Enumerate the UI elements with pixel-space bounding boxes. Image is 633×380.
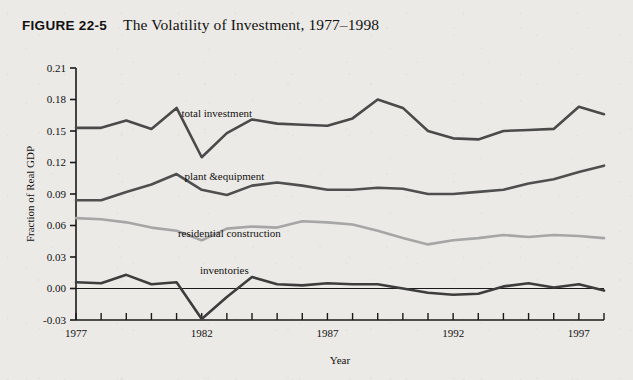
chart-plot-area: 0.210.180.150.120.090.060.030.00-0.03 19… (0, 44, 633, 380)
series-line (76, 100, 604, 158)
line-chart: 0.210.180.150.120.090.060.030.00-0.03 19… (0, 44, 633, 380)
series-label: inventories (200, 264, 249, 276)
y-axis: 0.210.180.150.120.090.060.030.00-0.03 (43, 62, 76, 326)
x-axis-tick-label: 1997 (568, 327, 591, 339)
y-axis-tick-label: 0.09 (47, 188, 67, 200)
series-lines (76, 100, 604, 319)
y-axis-tick-label: 0.15 (47, 125, 67, 137)
series-label: residential construction (178, 227, 281, 239)
y-axis-tick-label: 0.06 (47, 219, 67, 231)
x-axis-title: Year (330, 354, 351, 366)
y-axis-title: Fraction of Real GDP (24, 146, 36, 242)
x-axis-tick-label: 1987 (316, 327, 339, 339)
figure-title: The Volatility of Investment, 1977–1998 (123, 16, 379, 34)
x-axis-tick-label: 1982 (191, 327, 213, 339)
x-axis-tick-label: 1977 (65, 327, 88, 339)
x-axis-tick-label: 1992 (442, 327, 464, 339)
x-axis: 19771982198719921997 (65, 313, 604, 339)
y-axis-tick-label: 0.12 (47, 156, 66, 168)
y-axis-tick-label: 0.21 (47, 62, 66, 74)
y-axis-tick-label: 0.03 (47, 251, 67, 263)
series-line (76, 166, 604, 201)
figure-container: FIGURE 22-5 The Volatility of Investment… (0, 0, 633, 380)
figure-header: FIGURE 22-5 The Volatility of Investment… (22, 16, 379, 34)
y-axis-tick-label: -0.03 (43, 314, 66, 326)
series-label: total investment (182, 107, 253, 119)
series-label: plant &equipment (184, 170, 264, 182)
y-axis-tick-label: 0.00 (47, 282, 67, 294)
y-axis-tick-label: 0.18 (47, 93, 67, 105)
series-line (76, 275, 604, 319)
series-line (76, 218, 604, 244)
figure-number: FIGURE 22-5 (22, 18, 107, 33)
